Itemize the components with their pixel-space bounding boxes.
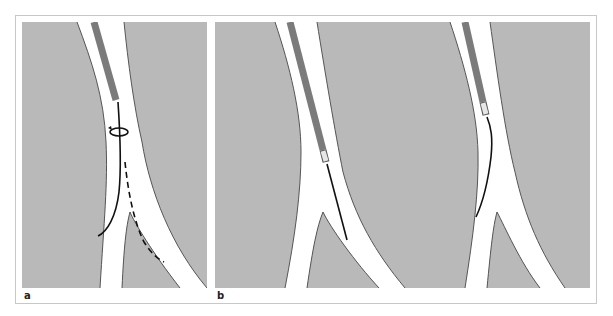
panel-a [22, 22, 207, 288]
panel-label-b: b [217, 290, 224, 301]
catheter-tip-fill [483, 103, 486, 114]
panel-a-illustration [22, 22, 207, 288]
panel-b [215, 22, 590, 288]
catheter-tip-fill [323, 151, 326, 161]
panel-b-illustration [215, 22, 590, 288]
panel-label-a: a [24, 290, 31, 301]
